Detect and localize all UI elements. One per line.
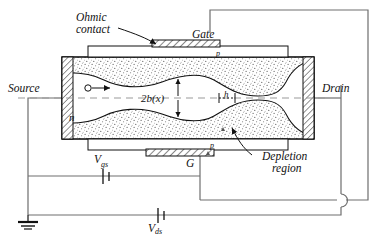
channel-type-label: n <box>69 111 75 123</box>
figure-canvas: Ohmic contact Gate Source Drain n p p 2b… <box>0 0 376 234</box>
gate-p-label-bottom: p <box>209 141 214 150</box>
vds-label: V ds <box>148 222 162 234</box>
gate-bottom-metal <box>146 149 214 156</box>
wire-source-rail <box>28 98 62 215</box>
drain-label: Drain <box>321 82 350 94</box>
gate-p-label-top: p <box>215 49 220 58</box>
gate-top-region <box>88 40 288 57</box>
gate-label: Gate <box>192 28 214 40</box>
source-label: Source <box>8 82 40 94</box>
ohmic-contact-leader <box>118 28 156 44</box>
ground-symbol <box>18 215 38 229</box>
gate-bottom-region <box>88 139 288 156</box>
jfet-diagram: Ohmic contact Gate Source Drain n p p 2b… <box>0 0 376 234</box>
vgs-label: V gs <box>94 153 108 169</box>
half-channel-label: h <box>224 89 229 99</box>
svg-text:ds: ds <box>155 227 162 234</box>
gate-top-metal <box>152 40 220 47</box>
gate-terminal-label: G <box>186 157 195 169</box>
depletion-label-line2: region <box>272 162 302 175</box>
svg-text:gs: gs <box>101 160 108 169</box>
ohmic-contact-label-line2: contact <box>76 23 111 35</box>
ohmic-contact-label-line1: Ohmic <box>76 11 107 23</box>
wire-crossover-hop <box>337 194 348 207</box>
channel-width-label: 2b(x) <box>141 92 165 105</box>
